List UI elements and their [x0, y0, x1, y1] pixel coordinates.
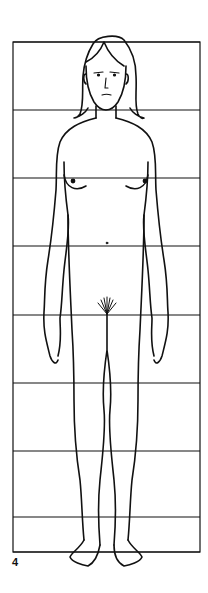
right-arm-inner: [143, 162, 154, 356]
left-foot: [70, 540, 100, 566]
right-shoulder-arm-outer: [116, 118, 168, 363]
pubic-hair: [98, 297, 116, 314]
navel: [106, 242, 108, 244]
eyes: [94, 72, 119, 76]
nose: [105, 78, 108, 88]
right-leg-outer: [128, 215, 144, 540]
left-arm-inner: [58, 162, 69, 356]
female-figure: [44, 36, 168, 566]
mouth: [102, 94, 111, 95]
inner-legs: [99, 314, 116, 545]
proportion-diagram: [0, 0, 208, 593]
right-nipple: [143, 179, 146, 182]
right-foot: [114, 540, 142, 566]
figure-number-label: 4: [12, 556, 18, 568]
left-leg-outer: [68, 215, 84, 540]
left-nipple: [71, 179, 74, 182]
left-shoulder-arm-outer: [44, 118, 96, 363]
